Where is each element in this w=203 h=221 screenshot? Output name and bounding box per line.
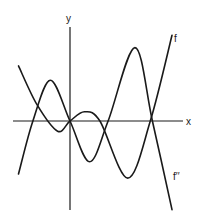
y-axis-label: y (66, 13, 71, 24)
f-double-prime-curve-label: f′′ (173, 171, 180, 182)
f-double-prime-curve (19, 48, 173, 210)
f-curve-label: f (174, 33, 177, 44)
chart: y x f f′′ (0, 0, 203, 221)
x-axis-label: x (186, 116, 191, 127)
